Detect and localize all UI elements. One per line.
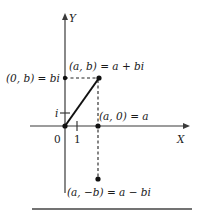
point-origin <box>62 123 67 128</box>
point-a-plus-bi <box>96 75 101 80</box>
label-zero-b: (0, b) = bi <box>6 72 60 84</box>
x-axis-label: X <box>176 133 185 145</box>
x-tick-1-label: 1 <box>74 133 81 145</box>
x-axis-arrow-icon <box>183 123 190 129</box>
y-axis-label: Y <box>69 12 77 24</box>
label-a-plus-bi: (a, b) = a + bi <box>69 60 144 72</box>
label-a-minus-bi: (a, −b) = a − bi <box>67 186 151 198</box>
complex-plane-diagram: Y X 0 1 i (a, b) = a + bi (0, b) = bi (a… <box>0 0 200 211</box>
y-tick-i-label: i <box>55 107 58 119</box>
y-axis-arrow-icon <box>62 13 68 20</box>
point-a-minus-bi <box>95 176 100 181</box>
label-a-zero: (a, 0) = a <box>99 110 149 122</box>
origin-label: 0 <box>54 133 61 145</box>
vector-a-plus-bi <box>65 78 99 126</box>
point-zero-b <box>63 76 67 80</box>
point-a-zero <box>95 123 100 128</box>
